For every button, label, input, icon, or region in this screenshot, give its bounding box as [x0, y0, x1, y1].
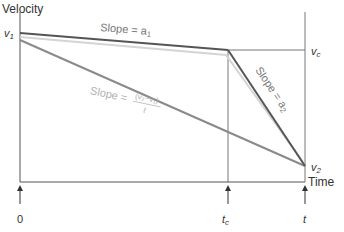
- slope-a1-label: Slope = a1: [100, 21, 153, 39]
- y-axis-label: Velocity: [2, 2, 43, 16]
- tick-tc-label: tc: [222, 213, 229, 227]
- segment-a1: [20, 33, 228, 50]
- svg-text:Slope =: Slope =: [89, 84, 128, 104]
- v1-label: v1: [4, 27, 14, 41]
- velocity-time-diagram: Velocity Time v1 vc v2 Slope = a1 Slope …: [0, 0, 344, 232]
- x-axis-label: Time: [308, 175, 335, 189]
- tick-0-label: 0: [17, 213, 23, 225]
- v2-label: v2: [311, 161, 322, 175]
- svg-text:t: t: [142, 106, 147, 115]
- svg-text:(v₂−v₁): (v₂−v₁): [134, 92, 159, 106]
- slope-a2-label: Slope = a2: [252, 64, 293, 115]
- tick-t-label: t: [303, 213, 307, 225]
- vc-label: vc: [311, 45, 321, 59]
